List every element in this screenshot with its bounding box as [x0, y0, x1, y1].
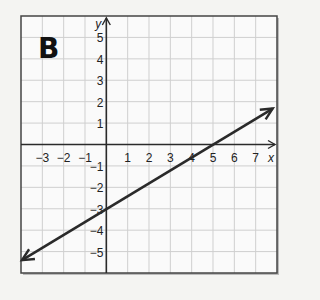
- y-tick-label: −4: [90, 224, 104, 238]
- y-tick-label: 5: [97, 31, 104, 45]
- x-tick-label: 5: [210, 151, 217, 165]
- x-tick-label: 2: [146, 151, 153, 165]
- y-tick-label: 1: [97, 117, 104, 131]
- x-tick-label: 6: [231, 151, 238, 165]
- y-tick-label: −1: [90, 160, 104, 174]
- x-tick-label: −3: [35, 151, 49, 165]
- x-tick-label: −2: [57, 151, 71, 165]
- y-tick-label: 3: [97, 74, 104, 88]
- y-tick-label: 4: [97, 53, 104, 67]
- y-tick-label: −5: [90, 246, 104, 260]
- x-tick-label: 1: [124, 151, 131, 165]
- y-tick-label: −2: [90, 181, 104, 195]
- y-axis-label: y: [94, 17, 102, 31]
- x-axis-label: x: [267, 151, 275, 165]
- x-tick-label: 3: [167, 151, 174, 165]
- x-tick-label: 7: [252, 151, 259, 165]
- y-tick-label: 2: [97, 96, 104, 110]
- panel-label: B: [38, 32, 59, 65]
